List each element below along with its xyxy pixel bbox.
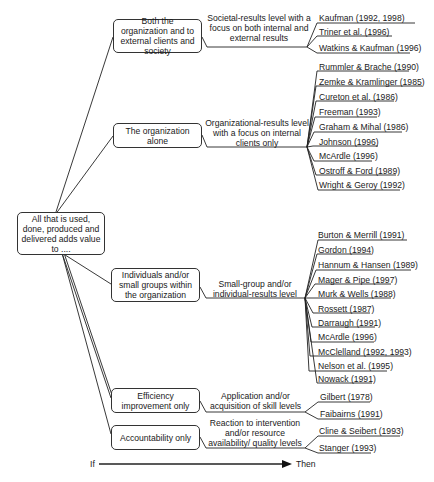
reference: Hannum & Hansen (1989) xyxy=(318,260,418,270)
reference: Wright & Geroy (1992) xyxy=(319,180,405,190)
reference: Triner et al. (1996) xyxy=(319,27,389,37)
level-label-skill: Application and/or acquisition of skill … xyxy=(206,391,305,411)
level-label-individual: Small-group and/or individual-results le… xyxy=(205,279,305,299)
target-node-efficiency: Efficiency improvement only xyxy=(111,388,200,413)
reference: Watkins & Kaufman (1996) xyxy=(319,43,421,53)
target-node-accountability: Accountability only xyxy=(111,425,200,450)
reference: Kaufman (1992, 1998) xyxy=(319,13,405,23)
reference: Johnson (1996) xyxy=(319,137,379,147)
level-label-reaction: Reaction to intervention and/or resource… xyxy=(203,418,307,448)
target-node-society: Both the organization and to external cl… xyxy=(113,19,202,53)
reference: Darraugh (1991) xyxy=(318,318,381,328)
reference: Cureton et al. (1986) xyxy=(319,92,398,102)
reference: Gilbert (1978) xyxy=(320,392,373,402)
tree-diagram: All that is used, done, produced and del… xyxy=(0,0,434,482)
target-node-organization: The organization alone xyxy=(113,123,202,148)
reference: McClelland (1992, 1993) xyxy=(318,347,412,357)
reference: Mager & Pipe (1997) xyxy=(318,275,397,285)
axis-start-label: If xyxy=(90,459,95,469)
reference: Nelson et al. (1995) xyxy=(318,361,393,371)
reference: Rossett (1987) xyxy=(318,304,374,314)
reference: Cline & Seibert (1993) xyxy=(319,426,404,436)
reference: Rummler & Brache (1990) xyxy=(319,62,419,72)
level-label-organizational: Organizational-results level with a focu… xyxy=(205,118,309,148)
reference: Gordon (1994) xyxy=(318,245,374,255)
reference: Murk & Wells (1988) xyxy=(318,289,396,299)
reference: Graham & Mihal (1986) xyxy=(319,122,408,132)
target-node-individuals: Individuals and/or small groups within t… xyxy=(111,268,200,302)
axis-end-label: Then xyxy=(296,459,316,469)
reference: Stanger (1993) xyxy=(319,443,376,453)
reference: Burton & Merrill (1991) xyxy=(318,230,404,240)
reference: Freeman (1993) xyxy=(319,107,381,117)
reference: Nowack (1991) xyxy=(318,374,376,384)
reference: McArdle (1996) xyxy=(319,151,378,161)
reference: McArdle (1996) xyxy=(318,332,377,342)
reference: Ostroff & Ford (1989) xyxy=(319,166,400,176)
level-label-societal: Societal-results level with a focus on b… xyxy=(207,13,311,43)
root-node: All that is used, done, produced and del… xyxy=(17,212,105,255)
reference: Faibairns (1991) xyxy=(320,409,383,419)
reference: Zemke & Kramlinger (1985) xyxy=(319,77,425,87)
